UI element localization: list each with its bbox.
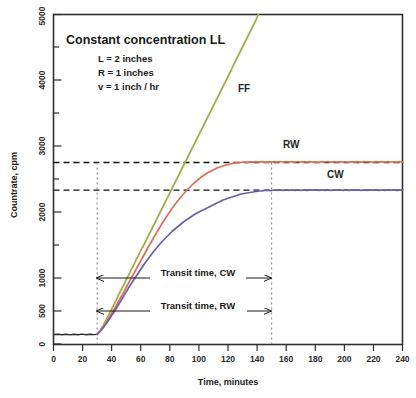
x-tick-label: 0: [51, 354, 56, 364]
x-tick-label: 80: [165, 354, 175, 364]
y-axis-title: Countrate, cpm: [9, 152, 19, 218]
chart-background: [0, 0, 416, 398]
y-tick-label: 2000: [37, 202, 47, 221]
chart-title: Constant concentration LL: [66, 33, 225, 47]
y-tick-label: 0: [37, 341, 47, 346]
chart-figure: 0 500 1000 2000 3000 4000 5000 Countrate…: [0, 0, 416, 398]
transit-time-rw-label: Transit time, RW: [161, 300, 235, 311]
series-label-ff: FF: [238, 83, 250, 94]
x-tick-label: 240: [395, 354, 409, 364]
series-label-cw: CW: [327, 169, 344, 180]
y-tick-label: 4000: [37, 70, 47, 89]
y-tick-label: 1000: [37, 268, 47, 287]
x-tick-label: 100: [192, 354, 206, 364]
x-tick-label: 40: [107, 354, 117, 364]
x-tick-label: 140: [250, 354, 264, 364]
series-label-rw: RW: [283, 139, 300, 150]
x-tick-label: 120: [221, 354, 235, 364]
y-tick-label: 5000: [37, 6, 47, 25]
x-tick-label: 20: [78, 354, 88, 364]
baseline-trace: [54, 334, 97, 335]
x-axis-title: Time, minutes: [198, 377, 258, 387]
x-tick-label: 180: [308, 354, 322, 364]
x-tick-label: 60: [136, 354, 146, 364]
param-L-label: L = 2 inches: [98, 53, 152, 64]
countrate-vs-time-chart: 0 500 1000 2000 3000 4000 5000 Countrate…: [0, 0, 416, 398]
y-tick-label: 500: [37, 304, 47, 318]
x-tick-label: 220: [366, 354, 380, 364]
x-tick-label: 160: [279, 354, 293, 364]
x-tick-label: 200: [337, 354, 351, 364]
y-tick-label: 3000: [37, 136, 47, 155]
param-R-label: R = 1 inches: [98, 67, 154, 78]
transit-time-cw-label: Transit time, CW: [161, 267, 235, 278]
param-v-label: v = 1 inch / hr: [98, 81, 159, 92]
